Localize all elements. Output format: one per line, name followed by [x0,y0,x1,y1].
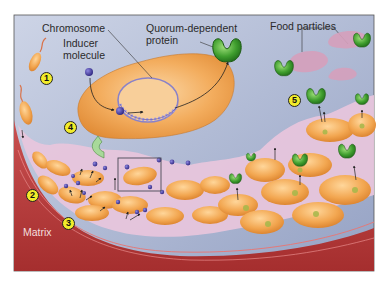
step-badge-5: 5 [288,94,301,107]
label-inducer-line1: Inducer [63,38,98,49]
label-quorum-line1: Quorum-dependent [146,23,237,34]
label-quorum-line2: protein [146,35,178,46]
step-badge-2: 2 [26,189,39,202]
label-inducer-line2: molecule [63,50,105,61]
chromosome-ring [118,78,178,122]
step-badge-1: 1 [40,72,53,85]
label-chromosome: Chromosome [42,23,105,34]
step-badge-4: 4 [64,121,77,134]
step-badge-3: 3 [62,217,75,230]
inducer-molecule-free [85,68,93,76]
quorum-sensing-diagram [0,0,384,284]
label-matrix: Matrix [23,227,52,238]
label-food-particles: Food particles [270,21,336,32]
